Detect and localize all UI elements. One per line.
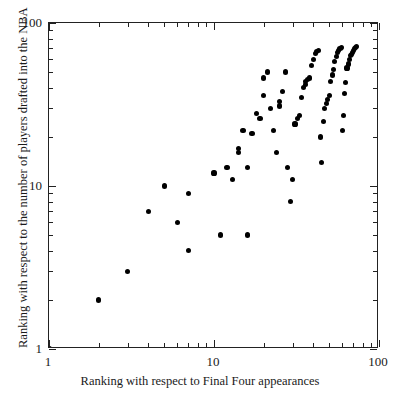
data-point [96, 297, 101, 302]
x-minor-tick [342, 343, 343, 347]
data-point [327, 93, 332, 98]
data-point [334, 54, 339, 59]
scatter-plot-figure: 110100 110100 Ranking with respect to Fi… [0, 0, 400, 397]
y-minor-tick-right [373, 39, 377, 40]
data-point [274, 150, 279, 155]
x-minor-tick [371, 343, 372, 347]
x-minor-tick-top [313, 23, 314, 27]
data-point [245, 232, 250, 237]
x-minor-tick [206, 343, 207, 347]
x-minor-tick [198, 343, 199, 347]
x-minor-tick-top [148, 23, 149, 27]
y-minor-tick [49, 222, 53, 223]
y-major-tick [49, 23, 56, 24]
data-point [186, 248, 191, 253]
x-minor-tick [128, 343, 129, 347]
x-minor-tick [329, 343, 330, 347]
x-minor-tick [148, 343, 149, 347]
x-minor-tick [264, 343, 265, 347]
data-point [307, 75, 312, 80]
x-minor-tick-top [188, 23, 189, 27]
x-minor-tick-top [99, 23, 100, 27]
x-minor-tick [353, 343, 354, 347]
x-minor-tick [164, 343, 165, 347]
data-point [328, 79, 333, 84]
x-minor-tick [293, 343, 294, 347]
y-minor-tick [49, 108, 53, 109]
x-tick-label: 1 [45, 355, 52, 368]
data-point [311, 57, 316, 62]
data-point [261, 75, 266, 80]
x-major-tick [379, 340, 380, 347]
x-minor-tick-top [206, 23, 207, 27]
data-point [261, 93, 266, 98]
data-point [268, 106, 273, 111]
data-point [319, 160, 324, 165]
data-point [318, 134, 323, 139]
y-minor-tick [49, 271, 53, 272]
data-point [346, 61, 351, 66]
x-major-tick-top [49, 23, 50, 30]
y-minor-tick-right [373, 235, 377, 236]
data-point [342, 91, 347, 96]
data-point [249, 131, 254, 136]
y-minor-tick [49, 202, 53, 203]
x-minor-tick-top [353, 23, 354, 27]
y-minor-tick [49, 59, 53, 60]
data-point [283, 69, 288, 74]
y-axis-title: Ranking with respect to the number of pl… [16, 7, 30, 348]
data-point [339, 45, 344, 50]
data-point [186, 191, 191, 196]
y-minor-tick-right [373, 48, 377, 49]
data-point [343, 80, 348, 85]
x-minor-tick-top [363, 23, 364, 27]
x-minor-tick-top [164, 23, 165, 27]
data-point [331, 67, 336, 72]
x-minor-tick-top [342, 23, 343, 27]
y-minor-tick-right [373, 211, 377, 212]
data-point [236, 146, 241, 151]
data-point [146, 209, 151, 214]
x-minor-tick [188, 343, 189, 347]
y-minor-tick [49, 235, 53, 236]
data-point [224, 165, 229, 170]
data-point [254, 111, 259, 116]
y-minor-tick [49, 72, 53, 73]
x-major-tick [214, 340, 215, 347]
y-major-tick [49, 186, 56, 187]
data-point [341, 113, 346, 118]
x-tick-label: 100 [368, 355, 388, 368]
y-minor-tick-right [373, 30, 377, 31]
data-point [316, 48, 321, 53]
data-point [218, 232, 223, 237]
y-minor-tick [49, 39, 53, 40]
y-minor-tick-right [373, 251, 377, 252]
data-point [240, 128, 245, 133]
data-point [322, 106, 327, 111]
y-minor-tick [49, 211, 53, 212]
x-minor-tick [363, 343, 364, 347]
data-point [125, 269, 130, 274]
x-minor-tick [313, 343, 314, 347]
plot-area [48, 22, 378, 348]
data-point [288, 199, 293, 204]
x-minor-tick-top [293, 23, 294, 27]
data-point [309, 63, 314, 68]
x-minor-tick [99, 343, 100, 347]
x-major-tick-top [379, 23, 380, 30]
y-minor-tick [49, 137, 53, 138]
data-point [354, 44, 359, 49]
data-point [297, 113, 302, 118]
y-minor-tick [49, 300, 53, 301]
x-tick-label: 10 [207, 355, 220, 368]
x-minor-tick [177, 343, 178, 347]
x-minor-tick-top [264, 23, 265, 27]
data-point [257, 116, 262, 121]
data-point [340, 128, 345, 133]
data-point [285, 165, 290, 170]
y-minor-tick-right [373, 222, 377, 223]
data-point [245, 165, 250, 170]
y-minor-tick-right [373, 271, 377, 272]
y-minor-tick [49, 193, 53, 194]
y-minor-tick-right [373, 193, 377, 194]
